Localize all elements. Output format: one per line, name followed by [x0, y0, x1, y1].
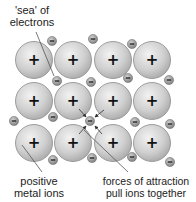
forces-label-line2: pull ions together: [94, 187, 196, 199]
plus-sign-icon: +: [107, 134, 120, 152]
forces-of-attraction-label: forces of attraction pull ions together: [94, 175, 196, 199]
positive-ion: +: [55, 83, 92, 120]
positive-metal-ions-label: positive metal ions: [4, 175, 74, 199]
positive-ion: +: [16, 83, 53, 120]
ions-label-line1: positive: [4, 175, 74, 187]
plus-sign-icon: +: [67, 51, 80, 69]
sea-label-line2: electrons: [2, 16, 62, 28]
positive-ion: +: [16, 125, 53, 162]
sea-of-electrons-label: 'sea' of electrons: [2, 4, 62, 28]
electron: [130, 117, 139, 126]
plus-sign-icon: +: [67, 134, 80, 152]
positive-ion: +: [95, 125, 132, 162]
positive-metal-ions-lattice: ++++++++++++: [16, 42, 171, 162]
forces-label-line1: forces of attraction: [94, 175, 196, 187]
plus-sign-icon: +: [146, 51, 159, 69]
electron: [127, 152, 136, 161]
electron: [86, 77, 95, 86]
electron: [127, 39, 136, 48]
electron: [52, 76, 61, 85]
plus-sign-icon: +: [28, 51, 41, 69]
positive-ion: +: [95, 83, 132, 120]
plus-sign-icon: +: [107, 92, 120, 110]
metallic-bonding-diagram: ++++++++++++: [0, 0, 196, 202]
electron: [123, 73, 132, 82]
plus-sign-icon: +: [107, 51, 120, 69]
plus-sign-icon: +: [28, 134, 41, 152]
plus-sign-icon: +: [67, 92, 80, 110]
positive-ion: +: [95, 42, 132, 79]
electron: [88, 34, 97, 43]
positive-ion: +: [55, 42, 92, 79]
plus-sign-icon: +: [146, 92, 159, 110]
electron: [164, 75, 173, 84]
electron: [85, 116, 94, 125]
electron: [165, 119, 174, 128]
electron: [87, 153, 96, 162]
ions-label-line2: metal ions: [4, 187, 74, 199]
positive-ion: +: [134, 83, 171, 120]
sea-label-line1: 'sea' of: [2, 4, 62, 16]
electron: [47, 36, 56, 45]
electron: [48, 112, 57, 121]
plus-sign-icon: +: [28, 92, 41, 110]
positive-ion: +: [55, 125, 92, 162]
positive-ion: +: [134, 42, 171, 79]
positive-ion: +: [16, 42, 53, 79]
electron: [165, 157, 174, 166]
electron: [48, 155, 57, 164]
positive-ion: +: [134, 125, 171, 162]
plus-sign-icon: +: [146, 134, 159, 152]
electron: [9, 116, 18, 125]
